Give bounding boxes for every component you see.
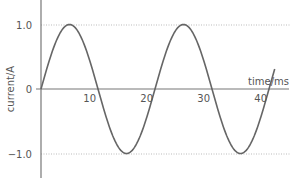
x-tick-30: 30	[197, 93, 210, 104]
x-tick-20: 20	[140, 93, 153, 104]
y-tick-neg1: −1.0	[8, 149, 32, 160]
x-axis-label: time/ms	[248, 76, 289, 87]
y-tick-0: 0	[26, 84, 32, 95]
y-axis-label: current/A	[5, 66, 16, 112]
x-tick-40: 40	[254, 93, 267, 104]
y-tick-1: 1.0	[16, 20, 32, 31]
sine-chart: 1.0 0 −1.0 10 20 30 40 time/ms current/A	[0, 0, 291, 181]
x-tick-10: 10	[83, 93, 96, 104]
